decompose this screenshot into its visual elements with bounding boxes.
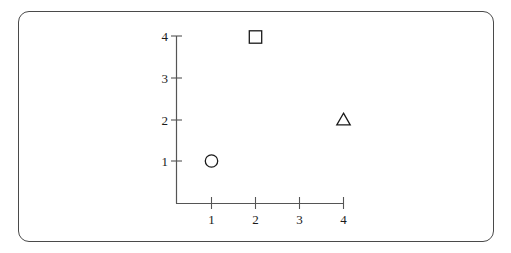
y-axis-label-4: 4	[152, 30, 168, 43]
x-axis-label-4: 4	[336, 213, 352, 226]
x-axis-label-3: 3	[292, 213, 308, 226]
scatter-plot: 4 3 2 1 1 2 3 4	[0, 0, 511, 253]
y-axis-label-1: 1	[152, 155, 168, 168]
y-axis-label-2: 2	[152, 114, 168, 127]
circle-marker[interactable]	[205, 155, 217, 167]
y-axis-label-3: 3	[152, 72, 168, 85]
triangle-marker[interactable]	[337, 113, 350, 125]
x-axis-label-1: 1	[204, 213, 220, 226]
square-marker[interactable]	[249, 31, 261, 43]
x-axis-label-2: 2	[248, 213, 264, 226]
